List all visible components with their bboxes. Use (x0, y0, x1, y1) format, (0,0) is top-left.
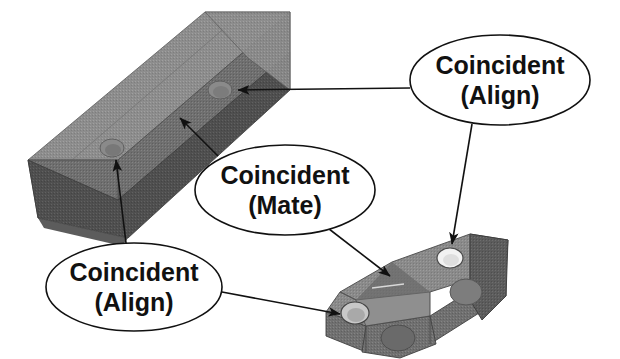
leader-mate-to-bracket (320, 222, 390, 276)
callout-align-bottom-left[interactable]: Coincident (Align) (46, 243, 222, 331)
callout-line-2: (Align) (460, 81, 539, 109)
callout-line-2: (Align) (94, 288, 173, 316)
callout-line-2: (Mate) (248, 191, 322, 219)
callout-ellipse (410, 35, 590, 125)
bracket-right-side (470, 234, 508, 320)
callout-ellipse (46, 243, 222, 331)
callout-ellipse (195, 145, 375, 235)
leader-align-tr-to-bracket (452, 124, 472, 244)
beam-hole-left-bore (105, 144, 121, 156)
beam-hole-right-bore (213, 86, 229, 98)
bracket-part (326, 234, 508, 358)
bracket-hole-left-bore (347, 308, 365, 322)
bracket-boss-center (381, 325, 415, 351)
callout-line-1: Coincident (220, 161, 350, 189)
callout-align-top-right[interactable]: Coincident (Align) (410, 35, 590, 125)
callout-line-1: Coincident (435, 51, 565, 79)
diagram-canvas: Coincident (Align) Coincident (Mate) Coi… (0, 0, 620, 359)
callout-mate-middle[interactable]: Coincident (Mate) (195, 145, 375, 235)
bracket-hole-right-bore (443, 254, 459, 266)
assembly-illustration: Coincident (Align) Coincident (Mate) Coi… (0, 0, 620, 359)
callout-line-1: Coincident (69, 258, 199, 286)
bracket-boss-right (450, 279, 482, 305)
leader-align-bl-to-bracket (222, 292, 340, 314)
